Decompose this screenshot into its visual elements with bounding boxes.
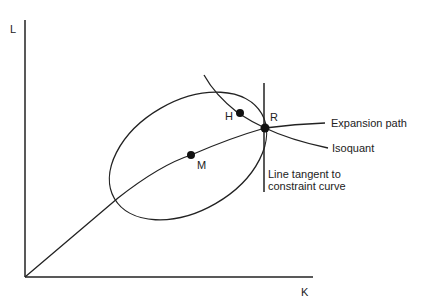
point-r [261, 124, 270, 133]
diagram-canvas: L K H M R Expansion path Isoquant Line t… [0, 0, 423, 308]
y-axis-label: L [10, 23, 16, 35]
point-h [236, 109, 244, 117]
isoquant-label: Isoquant [332, 142, 374, 154]
tangent-line-label-1: Line tangent to [268, 168, 341, 180]
point-m [187, 151, 195, 159]
tangent-line-label-2: constraint curve [268, 180, 346, 192]
point-m-label: M [197, 159, 206, 171]
point-h-label: H [225, 110, 233, 122]
x-axis-label: K [301, 286, 309, 298]
expansion-path-label: Expansion path [331, 117, 407, 129]
expansion-path-curve [25, 123, 325, 277]
point-r-label: R [270, 111, 278, 123]
